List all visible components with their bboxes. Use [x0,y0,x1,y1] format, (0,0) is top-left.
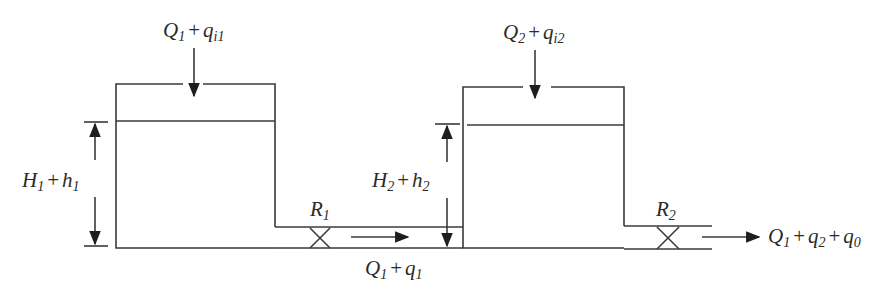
tank-2 [463,87,624,248]
resistance-2-label: R2 [656,199,676,223]
valve-r2-icon [657,227,679,249]
level-2-label: H2+h2 [372,170,430,194]
inflow-1-label: Q1+qi1 [163,20,224,44]
resistance-1-label: R1 [310,199,330,223]
two-tank-diagram [0,0,890,298]
outflow-label: Q1+q2+q0 [768,226,861,250]
outlet-pipe-2 [624,226,759,249]
level-1-dimension [84,122,108,246]
inflow-2-label: Q2+qi2 [503,22,564,46]
connecting-pipe-1 [275,227,463,248]
level-1-label: H1+h1 [22,170,80,194]
tank-1 [116,84,275,248]
flow-1-label: Q1+q1 [365,258,423,282]
valve-r1-icon [310,228,330,248]
